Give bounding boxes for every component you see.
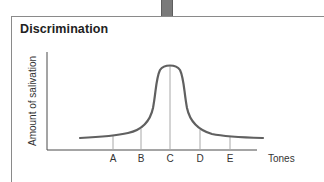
tick-label-a: A [110,153,117,164]
response-curve [80,66,263,139]
tick-label-c: C [166,153,173,164]
y-axis-label: Amount of salivation [27,56,38,146]
x-axis-label: Tones [268,153,295,164]
tick-label-d: D [196,153,203,164]
tick-label-b: B [138,153,145,164]
tick-label-e: E [227,153,234,164]
